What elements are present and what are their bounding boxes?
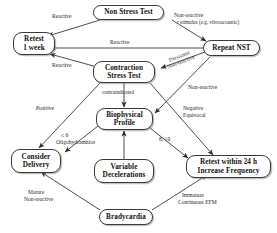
node-label: Stress Test <box>107 72 141 80</box>
node-label: Retest within 24 h <box>200 158 257 166</box>
node-label: Consider <box>22 153 51 161</box>
edge-bradycardia-to-considerdel <box>41 172 100 210</box>
node-contraction-stress-test[interactable]: Contraction Stress Test <box>93 61 155 83</box>
edge-label-non-reactive-right: Non-reactive <box>188 84 217 90</box>
edge-label-immature: Immature <box>182 192 204 198</box>
node-bradycardia[interactable]: Bradycardia <box>99 209 153 225</box>
edge-label-score-8-10: 8, 10 <box>159 136 170 142</box>
node-label: 1 week <box>23 44 45 52</box>
node-label: Delivery <box>23 161 50 169</box>
node-biophysical-profile[interactable]: Biophysical Profile <box>96 108 153 130</box>
node-label: Contraction <box>105 64 143 72</box>
edge-label-oligohydramnios: Oligohydramnios <box>56 139 95 145</box>
edge-label-non-reactive-stimulus-line2: • stimulus (e.g. vibroacoustic) <box>177 19 239 25</box>
node-label: Repeat NST <box>212 44 250 52</box>
node-retest-within-24h[interactable]: Retest within 24 h Increase Frequency <box>186 155 271 178</box>
node-variable-decelerations[interactable]: Variable Decelerations <box>94 159 154 183</box>
edge-label-reactive-top: Reactive <box>52 13 72 19</box>
node-label: Increase Frequency <box>197 167 259 175</box>
edge-bpp-to-retest24h <box>150 128 188 158</box>
node-label: Non Stress Test <box>104 8 153 16</box>
edge-label-contraindicated: contraindicated <box>102 89 134 95</box>
node-non-stress-test[interactable]: Non Stress Test <box>93 5 164 20</box>
edge-label-negative: Negative <box>183 105 203 111</box>
node-repeat-nst[interactable]: Repeat NST <box>203 40 260 56</box>
node-label: Profile <box>114 119 135 127</box>
edge-label-mature: Mature <box>28 189 44 195</box>
node-label: Retest <box>24 35 44 43</box>
edge-label-continuous-efm: Continuous EFM <box>178 199 217 205</box>
edge-label-reactive-cst: Reactive <box>52 62 72 68</box>
node-label: Biophysical <box>106 111 143 119</box>
flowchart-canvas: Non Stress Test Retest 1 week Repeat NST… <box>0 0 277 233</box>
edge-label-positive: Positive <box>36 105 54 111</box>
edge-label-non-reactive-stimulus-line1: Non-reactive <box>174 12 203 18</box>
node-label: Bradycardia <box>106 213 146 221</box>
node-consider-delivery[interactable]: Consider Delivery <box>11 149 61 173</box>
node-retest-1-week[interactable]: Retest 1 week <box>13 32 55 55</box>
edge-cst-to-retest24h <box>150 83 213 155</box>
edge-label-equivocal: Equivocal <box>183 112 206 118</box>
edge-label-mature-non-reactive: Non-reactive <box>24 196 53 202</box>
edge-nst-to-retest1week <box>48 20 100 36</box>
node-label: Decelerations <box>103 171 146 179</box>
edge-label-reactive-mid: Reactive <box>110 39 130 45</box>
node-label: Variable <box>111 163 138 171</box>
edge-label-score-le-6: ≤ 6 <box>61 132 68 138</box>
